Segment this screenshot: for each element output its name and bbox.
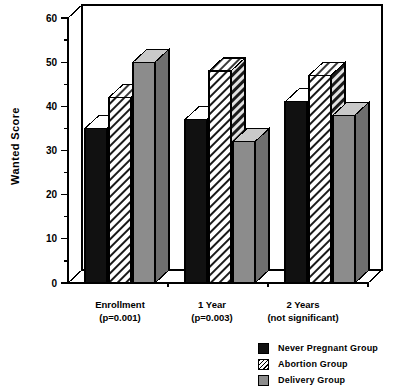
bar-front-face: [233, 142, 255, 283]
x-label-line1: 2 Years: [238, 299, 368, 312]
bar-side-face: [355, 102, 369, 283]
bar-side-face: [255, 129, 269, 283]
bar-front-face: [285, 102, 307, 283]
bar-chart-plot: 0102030405060: [0, 0, 393, 340]
legend-label: Never Pregnant Group: [278, 343, 378, 353]
y-axis-tick-label: 0: [51, 278, 57, 289]
y-axis-tick-label: 20: [46, 189, 58, 200]
plot-left-wall: [68, 5, 82, 283]
x-label-group-2: 2 Years (not significant): [238, 299, 368, 324]
y-axis-tick-label: 60: [46, 13, 58, 24]
y-axis-tick-label: 50: [46, 57, 58, 68]
chart-legend: Never Pregnant Group Abortion Group Deli…: [258, 340, 393, 388]
legend-label: Abortion Group: [278, 359, 348, 369]
chart-figure: Wanted Score 0102030405060 Enrollment (p…: [0, 0, 393, 390]
bar-side-face: [155, 49, 169, 283]
hatched-swatch-icon: [258, 359, 269, 370]
bar-front-face: [85, 128, 107, 283]
y-axis-tick-label: 10: [46, 233, 58, 244]
bar-front-face: [309, 75, 331, 283]
x-axis-labels: Enrollment (p=0.001) 1 Year (p=0.003) 2 …: [0, 299, 393, 333]
legend-item-delivery: Delivery Group: [258, 372, 393, 388]
bar-2-2: [333, 102, 369, 283]
y-axis: 0102030405060: [46, 13, 68, 289]
legend-label: Delivery Group: [278, 375, 345, 385]
gray-swatch-icon: [258, 375, 269, 386]
legend-item-never-pregnant: Never Pregnant Group: [258, 340, 393, 356]
bar-front-face: [209, 71, 231, 283]
legend-item-abortion: Abortion Group: [258, 356, 393, 372]
bar-front-face: [185, 120, 207, 283]
bar-0-2: [133, 49, 169, 283]
black-swatch-icon: [258, 343, 269, 354]
x-label-line2: (not significant): [238, 312, 368, 325]
bar-front-face: [333, 115, 355, 283]
bar-front-face: [109, 98, 131, 284]
y-axis-tick-label: 40: [46, 101, 58, 112]
y-axis-tick-label: 30: [46, 145, 58, 156]
bar-1-2: [233, 129, 269, 283]
bar-front-face: [133, 62, 155, 283]
